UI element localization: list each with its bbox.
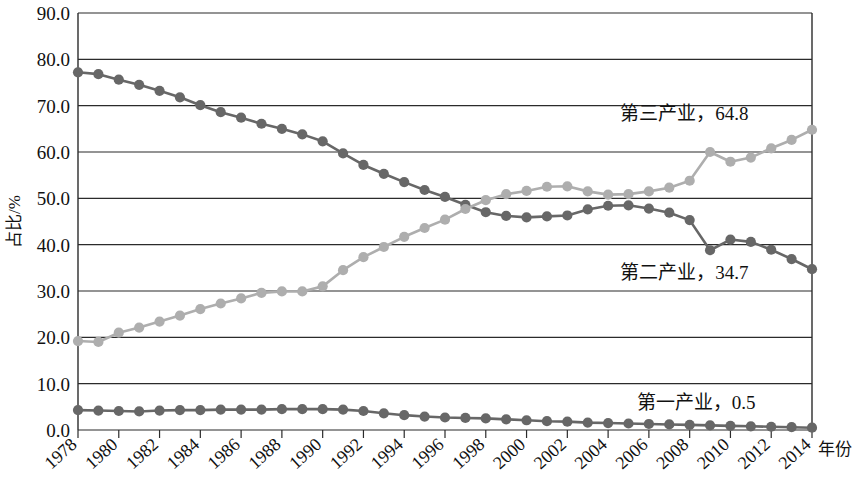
- data-point-marker: [195, 304, 205, 314]
- data-point-marker: [236, 293, 246, 303]
- data-point-marker: [420, 411, 430, 421]
- data-point-marker: [175, 310, 185, 320]
- data-point-marker: [644, 186, 654, 196]
- data-point-marker: [216, 298, 226, 308]
- data-point-marker: [562, 181, 572, 191]
- series-label: 第三产业，64.8: [620, 103, 748, 124]
- data-point-marker: [399, 410, 409, 420]
- data-point-marker: [787, 135, 797, 145]
- data-point-marker: [114, 406, 124, 416]
- data-point-marker: [318, 404, 328, 414]
- data-point-marker: [746, 152, 756, 162]
- data-point-marker: [236, 113, 246, 123]
- data-point-marker: [297, 286, 307, 296]
- data-point-marker: [807, 125, 817, 135]
- data-point-marker: [481, 195, 491, 205]
- data-point-marker: [501, 414, 511, 424]
- data-point-marker: [501, 211, 511, 221]
- data-point-marker: [746, 421, 756, 431]
- chart-container: 0.010.020.030.040.050.060.070.080.090.0 …: [0, 0, 855, 479]
- data-point-marker: [685, 420, 695, 430]
- y-tick-label: 80.0: [37, 49, 70, 70]
- data-point-marker: [766, 143, 776, 153]
- data-point-marker: [134, 406, 144, 416]
- data-point-marker: [521, 415, 531, 425]
- data-point-marker: [379, 242, 389, 252]
- data-point-marker: [358, 252, 368, 262]
- data-point-marker: [134, 80, 144, 90]
- data-point-marker: [725, 234, 735, 244]
- data-point-marker: [440, 412, 450, 422]
- data-point-marker: [562, 417, 572, 427]
- line-chart: 0.010.020.030.040.050.060.070.080.090.0 …: [0, 0, 855, 479]
- data-point-marker: [685, 176, 695, 186]
- data-point-marker: [664, 208, 674, 218]
- y-tick-label: 50.0: [37, 188, 70, 209]
- data-point-marker: [73, 405, 83, 415]
- data-point-marker: [114, 75, 124, 85]
- data-point-marker: [562, 210, 572, 220]
- series-label: 第二产业，34.7: [620, 262, 748, 283]
- data-point-marker: [481, 413, 491, 423]
- data-point-marker: [766, 245, 776, 255]
- data-point-marker: [134, 323, 144, 333]
- data-point-marker: [603, 190, 613, 200]
- data-point-marker: [297, 129, 307, 139]
- data-point-marker: [583, 204, 593, 214]
- data-point-marker: [379, 169, 389, 179]
- data-point-marker: [603, 418, 613, 428]
- data-point-marker: [73, 336, 83, 346]
- data-point-marker: [583, 186, 593, 196]
- data-point-marker: [460, 413, 470, 423]
- y-tick-label: 40.0: [37, 235, 70, 256]
- data-point-marker: [114, 328, 124, 338]
- data-point-marker: [236, 405, 246, 415]
- data-point-marker: [318, 281, 328, 291]
- data-point-marker: [154, 316, 164, 326]
- data-point-marker: [399, 177, 409, 187]
- data-point-marker: [521, 212, 531, 222]
- data-point-marker: [297, 404, 307, 414]
- data-point-marker: [256, 405, 266, 415]
- data-point-marker: [154, 86, 164, 96]
- data-point-marker: [705, 147, 715, 157]
- y-tick-label: 10.0: [37, 374, 70, 395]
- data-point-marker: [338, 148, 348, 158]
- y-tick-label: 90.0: [37, 3, 70, 24]
- y-tick-label: 20.0: [37, 327, 70, 348]
- data-point-marker: [277, 286, 287, 296]
- data-point-marker: [746, 237, 756, 247]
- data-point-marker: [542, 416, 552, 426]
- data-point-marker: [623, 200, 633, 210]
- data-point-marker: [664, 419, 674, 429]
- y-tick-label: 30.0: [37, 281, 70, 302]
- data-point-marker: [256, 119, 266, 129]
- data-point-marker: [787, 422, 797, 432]
- data-point-marker: [175, 92, 185, 102]
- data-point-marker: [175, 405, 185, 415]
- data-point-marker: [195, 100, 205, 110]
- data-point-marker: [420, 185, 430, 195]
- data-point-marker: [705, 420, 715, 430]
- data-point-marker: [481, 207, 491, 217]
- data-point-marker: [154, 405, 164, 415]
- data-point-marker: [460, 204, 470, 214]
- data-point-marker: [521, 186, 531, 196]
- data-point-marker: [379, 408, 389, 418]
- y-axis-title: 占比/%: [5, 195, 24, 248]
- data-point-marker: [216, 405, 226, 415]
- data-point-marker: [256, 288, 266, 298]
- data-point-marker: [440, 215, 450, 225]
- data-point-marker: [644, 203, 654, 213]
- data-point-marker: [623, 189, 633, 199]
- data-point-marker: [318, 136, 328, 146]
- data-point-marker: [195, 405, 205, 415]
- data-point-marker: [338, 265, 348, 275]
- data-point-marker: [440, 192, 450, 202]
- data-point-marker: [358, 160, 368, 170]
- data-point-marker: [399, 232, 409, 242]
- data-point-marker: [542, 182, 552, 192]
- x-axis-title: 年份: [818, 440, 852, 459]
- y-tick-label: 60.0: [37, 142, 70, 163]
- data-point-marker: [216, 107, 226, 117]
